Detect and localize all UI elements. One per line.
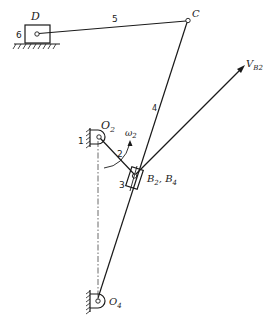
bearing-o4 (90, 294, 105, 308)
ground-o4 (86, 290, 105, 314)
label-c: C (192, 8, 200, 19)
omega-arrowhead-icon (128, 140, 133, 146)
label-o4: O4 (109, 296, 122, 310)
label-d: D (30, 10, 40, 23)
pin-d (35, 32, 39, 36)
label-link-1: 1 (78, 136, 84, 146)
label-link-2: 2 (117, 149, 123, 159)
ground-hatch-d (13, 44, 56, 49)
label-b2-b4: B2, B4 (146, 173, 177, 187)
slider-d-block (25, 25, 50, 43)
label-link-5: 5 (112, 14, 118, 24)
label-o2: O2 (101, 119, 115, 134)
mechanism-svg: D 6 5 C 4 1 O2 2 ω2 3 B2, B4 VB2 (0, 0, 276, 322)
link-4 (98, 23, 187, 299)
bearing-o2 (90, 130, 105, 144)
label-link-4: 4 (152, 104, 157, 113)
joint-c (186, 18, 190, 22)
label-omega-2: ω2 (125, 128, 137, 140)
mechanism-diagram: D 6 5 C 4 1 O2 2 ω2 3 B2, B4 VB2 (0, 0, 276, 322)
label-vb2: VB2 (246, 58, 263, 72)
velocity-vector-vb2 (136, 68, 242, 174)
label-link-6: 6 (16, 30, 22, 40)
label-link-3: 3 (119, 180, 125, 190)
